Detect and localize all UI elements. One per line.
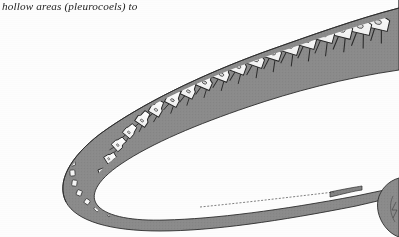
pleurocoel (101, 185, 103, 187)
body-mass-at-right-edge (377, 178, 399, 237)
caption-text: hollow areas (pleurocoels) to (2, 0, 302, 13)
sauropod-neck-vertebrae-illustration (0, 0, 399, 237)
book-page-fragment: hollow areas (pleurocoels) to (0, 0, 399, 237)
